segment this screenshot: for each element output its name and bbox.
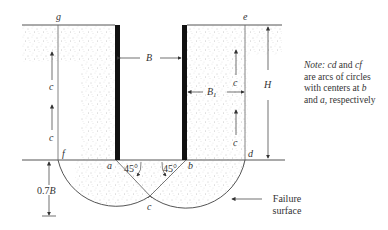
point-d: d <box>248 148 254 159</box>
point-c: c <box>147 201 152 212</box>
point-a: a <box>107 160 112 171</box>
point-g: g <box>56 11 61 22</box>
label-B: B <box>146 52 152 63</box>
label-c: c <box>49 81 54 92</box>
label-H: H <box>263 79 272 90</box>
label-c: c <box>233 137 238 148</box>
point-e: e <box>243 11 248 22</box>
note-text: Note: cd and cf are arcs of circles with… <box>304 60 388 106</box>
point-f: f <box>62 148 66 159</box>
label-0.7B: 0.7B <box>37 185 56 196</box>
braced-cut-diagram: B B1 H c c c c 0.7B 45° 45° g e f d a b … <box>0 0 388 230</box>
point-b: b <box>188 160 193 171</box>
left-sheet-pile <box>115 25 120 160</box>
angle-left-label: 45° <box>124 163 138 174</box>
angle-right-label: 45° <box>163 163 177 174</box>
label-c: c <box>233 77 238 88</box>
label-c: c <box>49 132 54 143</box>
failure-surface-label: Failure surface <box>262 193 312 217</box>
right-sheet-pile <box>182 25 187 160</box>
